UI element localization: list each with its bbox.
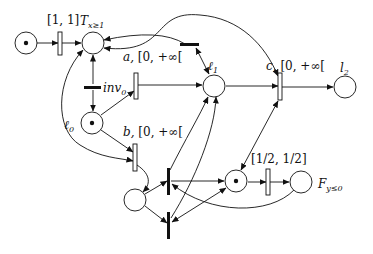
label-t-init: [1, 1] [47, 14, 79, 26]
place-l1 [203, 75, 225, 97]
token-icon [234, 179, 238, 183]
arc-bar-lower-to-l1 [171, 97, 216, 218]
transition-init [58, 32, 62, 55]
place-F [290, 171, 312, 193]
transition-b [133, 144, 137, 171]
place-l2 [334, 76, 356, 98]
label-T: Tx≥1 [80, 15, 104, 30]
transition-a [134, 73, 138, 99]
transition-bar-lower [167, 212, 170, 239]
label-a: a, [0, +∞[ [123, 51, 182, 63]
transition-bar-upper [167, 168, 170, 195]
label-half: [1/2, 1/2] [251, 153, 307, 165]
petri-net-graphics [0, 0, 373, 254]
label-b: b, [0, +∞[ [123, 126, 183, 138]
petri-net-diagram: [1, 1] Tx≥1 a, [0, +∞[ inv0 ℓ0 ℓ1 b, [0,… [0, 0, 373, 254]
arc-b-to-pbottom [137, 165, 148, 192]
transition-c [278, 73, 282, 100]
transition-top-bar [180, 43, 199, 46]
token-icon [24, 41, 28, 45]
arc-pbottom-to-bar-lower [145, 206, 167, 223]
arc-pmid-bar-lower [172, 188, 226, 222]
transition-half [266, 169, 270, 195]
place-T [82, 32, 104, 54]
label-l2: l2 [340, 62, 349, 77]
label-l0: ℓ0 [64, 119, 74, 134]
label-c: c, [0, +∞[ [266, 60, 325, 72]
transition-inv0 [84, 86, 101, 89]
label-F: Fy≤0 [318, 178, 343, 193]
label-l1: ℓ1 [208, 60, 218, 75]
place-bottom [124, 189, 146, 211]
label-inv0: inv0 [103, 82, 126, 97]
token-icon [90, 121, 94, 125]
